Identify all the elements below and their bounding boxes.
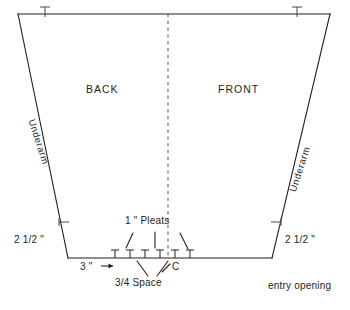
trapezoid-outline: [18, 14, 330, 258]
hem-tick: [156, 250, 164, 258]
dimension-left-underarm-hem: 2 1/2 ": [14, 235, 44, 245]
pleat-fold-mark-left: [126, 233, 133, 248]
dimension-hem-offset: 3 ": [80, 262, 93, 272]
panel-label-front: FRONT: [218, 84, 259, 95]
hem-offset-arrow-icon: [101, 263, 113, 268]
underarm-tick-marks: [59, 218, 281, 226]
top-edge-tick-marks: [40, 7, 302, 17]
pleat-fold-marks: [126, 232, 188, 249]
center-mark-label: C: [172, 262, 179, 272]
note-entry-opening: entry opening: [268, 281, 331, 291]
space-leader-left: [137, 261, 148, 276]
hem-tick: [126, 250, 134, 258]
pattern-diagram: BACK FRONT Underarm Underarm 2 1/2 " 2 1…: [0, 0, 350, 310]
panel-label-back: BACK: [86, 84, 119, 95]
dimension-pleat-width: 1 " Pleats: [125, 216, 169, 226]
dimension-right-underarm-hem: 2 1/2 ": [285, 235, 315, 245]
pleat-fold-mark-right: [180, 233, 188, 249]
space-leader-right: [157, 261, 168, 276]
space-leader-lines: [137, 261, 168, 276]
hem-tick: [141, 250, 149, 258]
hem-tick: [186, 250, 194, 258]
hem-tick: [111, 250, 119, 258]
dimension-pleat-spacing: 3/4 Space: [115, 278, 162, 288]
pleat-hem-tick-marks: [111, 250, 194, 258]
hem-tick: [171, 250, 179, 258]
